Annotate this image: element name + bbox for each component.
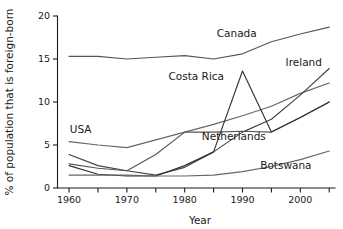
x-tick-label: 1970 (115, 194, 139, 205)
y-tick-label: 5 (44, 139, 50, 150)
x-tick-label: 1990 (230, 194, 254, 205)
series-line-canada (69, 27, 329, 59)
x-tick-label: 1980 (173, 194, 197, 205)
y-tick-label: 10 (38, 96, 50, 107)
y-tick-label: 0 (44, 182, 50, 193)
x-axis-title: Year (188, 214, 212, 226)
series-label-costa-rica: Costa Rica (168, 70, 224, 82)
series-group (69, 27, 329, 176)
series-labels-group: CanadaIrelandCosta RicaUSANetherlandsBot… (70, 27, 322, 171)
y-tick-label: 15 (38, 53, 50, 64)
series-label-netherlands: Netherlands (202, 130, 266, 142)
series-label-usa: USA (70, 123, 93, 135)
series-label-canada: Canada (217, 27, 257, 39)
y-tick-label: 20 (38, 10, 50, 21)
x-tick-label: 1960 (57, 194, 81, 205)
y-axis-title: % of population that is foreign-born (3, 9, 15, 196)
line-chart-svg: 0510152019601970198019902000 CanadaIrela… (0, 0, 343, 229)
series-line-usa (69, 83, 329, 148)
chart-figure: 0510152019601970198019902000 CanadaIrela… (0, 0, 343, 229)
series-label-ireland: Ireland (286, 56, 322, 68)
series-label-botswana: Botswana (260, 159, 311, 171)
x-tick-label: 2000 (288, 194, 312, 205)
